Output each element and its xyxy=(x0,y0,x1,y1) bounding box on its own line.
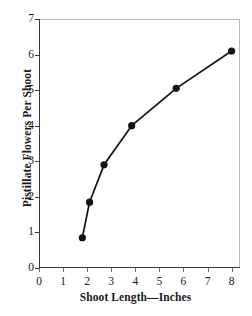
y-tick-label: 4 xyxy=(28,118,34,132)
x-tick-mark xyxy=(111,268,112,272)
x-tick-label: 7 xyxy=(198,274,218,288)
data-point xyxy=(173,85,180,92)
x-tick-mark xyxy=(63,268,64,272)
x-tick-label: 8 xyxy=(222,274,242,288)
y-tick-label: 0 xyxy=(28,260,34,274)
x-tick-mark xyxy=(87,268,88,272)
x-tick-label: 6 xyxy=(173,274,193,288)
y-tick-label: 5 xyxy=(28,82,34,96)
y-tick-label: 6 xyxy=(28,47,34,61)
x-axis-title: Shoot Length—Inches xyxy=(39,291,232,303)
x-tick-mark xyxy=(208,268,209,272)
y-tick-label: 7 xyxy=(28,11,34,25)
x-tick-mark xyxy=(232,268,233,272)
x-tick-label: 0 xyxy=(29,274,49,288)
data-series xyxy=(39,19,240,268)
x-tick-label: 2 xyxy=(77,274,97,288)
data-point xyxy=(128,122,135,129)
data-point xyxy=(79,234,86,241)
x-tick-mark xyxy=(159,268,160,272)
x-tick-mark xyxy=(39,268,40,272)
x-tick-label: 1 xyxy=(53,274,73,288)
y-tick-label: 1 xyxy=(28,224,34,238)
data-point xyxy=(86,199,93,206)
x-tick-mark xyxy=(135,268,136,272)
x-tick-label: 4 xyxy=(125,274,145,288)
chart-figure: Pistillate Flowers Per Shoot 01234567 01… xyxy=(0,0,252,316)
data-point xyxy=(100,161,107,168)
data-point xyxy=(228,47,235,54)
x-tick-label: 3 xyxy=(101,274,121,288)
plot-area: 01234567 012345678 xyxy=(39,19,240,268)
x-tick-label: 5 xyxy=(149,274,169,288)
series-markers xyxy=(79,47,235,241)
y-tick-label: 3 xyxy=(28,153,34,167)
y-tick-label: 2 xyxy=(28,189,34,203)
x-tick-mark xyxy=(183,268,184,272)
series-line xyxy=(82,51,231,238)
